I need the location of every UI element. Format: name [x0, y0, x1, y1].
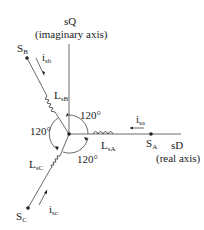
node-a-label: SA [146, 138, 157, 151]
inductor-a-label: LsA [101, 140, 116, 153]
phase-c-line [28, 168, 51, 208]
angle-label-bottom: 120° [77, 154, 98, 165]
node-b-dot [25, 56, 29, 60]
neutral-point [67, 132, 71, 136]
node-a-dot [149, 132, 153, 136]
angle-label-left: 120° [30, 126, 51, 137]
angle-label-top: 120° [80, 110, 101, 121]
node-c-dot [26, 206, 30, 210]
inductor-b-label: LsB [54, 90, 68, 103]
current-c-label: isc [49, 204, 58, 217]
inductor-c-icon [51, 156, 60, 168]
node-c-label: SC [16, 211, 27, 224]
q-axis-description: (imaginary axis) [35, 29, 107, 40]
current-b-label: isb [42, 52, 51, 65]
d-axis-description: (real axis) [156, 153, 200, 164]
inductor-c-label: LsC [29, 159, 43, 172]
d-axis-label: sD [171, 140, 183, 151]
current-a-label: isa [136, 114, 145, 127]
q-axis-label: sQ [64, 16, 76, 27]
node-b-label: SB [17, 43, 28, 56]
